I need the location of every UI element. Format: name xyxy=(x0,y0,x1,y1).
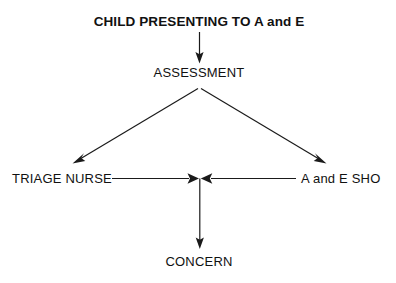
edge-junction-to-concern xyxy=(196,179,204,250)
arrowhead-down-left-to-triage xyxy=(73,153,86,163)
arrowhead-right-to-junction xyxy=(188,173,200,184)
edge-triage-to-junction xyxy=(112,173,199,184)
node-label-assessment: ASSESSMENT xyxy=(154,66,245,79)
flowchart-diagram: CHILD PRESENTING TO A and E ASSESSMENT T… xyxy=(0,0,396,283)
flowchart-connectors xyxy=(0,0,396,283)
edge-line-assessment-to-triage xyxy=(80,89,198,160)
edge-line-assessment-to-sho xyxy=(201,89,319,160)
edge-sho-to-junction xyxy=(201,173,296,184)
arrowhead-left-to-junction xyxy=(201,173,213,184)
node-label-concern: CONCERN xyxy=(165,255,232,268)
edge-assessment-to-sho xyxy=(201,89,327,164)
edge-assessment-to-triage xyxy=(73,89,199,164)
node-label-triage-nurse: TRIAGE NURSE xyxy=(12,172,112,185)
arrowhead-down-right-to-sho xyxy=(314,153,327,163)
node-label-a-and-e-sho: A and E SHO xyxy=(301,172,381,185)
edge-child-to-assessment xyxy=(195,32,203,64)
node-label-child-presenting: CHILD PRESENTING TO A and E xyxy=(94,15,305,29)
